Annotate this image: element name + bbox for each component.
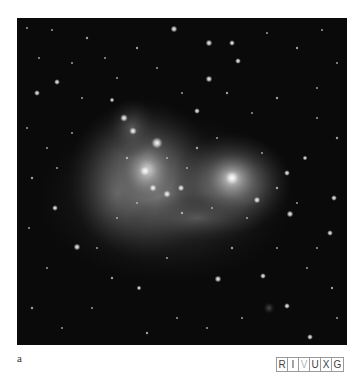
- band-g: G: [332, 358, 343, 371]
- band-r: R: [277, 358, 288, 371]
- panel-label: a: [17, 352, 22, 364]
- astronomical-photo: [17, 18, 347, 345]
- band-v: V: [299, 358, 310, 371]
- nebula-image: [17, 18, 347, 345]
- band-i: I: [288, 358, 299, 371]
- wavelength-band-indicator: R I V U X G: [276, 357, 344, 372]
- band-u: U: [310, 358, 321, 371]
- band-x: X: [321, 358, 332, 371]
